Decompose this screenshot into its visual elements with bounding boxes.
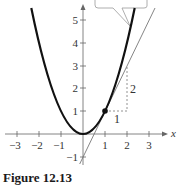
y-tick-label: 1	[73, 105, 79, 117]
x-tick-label: −1	[53, 139, 65, 151]
x-tick-label: 3	[146, 139, 152, 151]
figure-plot: −3 −2 −1 1 2 3 −1 1 2 3 4 5 x 2 1	[0, 0, 181, 191]
x-axis-arrow-icon	[162, 132, 168, 137]
x-tick-label: 2	[124, 139, 130, 151]
y-tick-label: 5	[73, 14, 79, 26]
tangent-line	[80, 8, 155, 164]
figure-caption: Figure 12.13	[3, 170, 72, 186]
x-tick-label: 1	[102, 139, 108, 151]
run-label: 1	[114, 112, 120, 126]
tangent-point	[102, 108, 108, 114]
y-axis-arrow-icon	[81, 4, 86, 10]
callout-box	[95, 0, 147, 26]
y-tick-label: 4	[73, 37, 79, 49]
y-tick-label: 2	[73, 82, 79, 94]
x-tick-label: −3	[9, 139, 21, 151]
y-tick-label: 3	[73, 60, 79, 72]
x-tick-label: −2	[31, 139, 43, 151]
rise-label: 2	[130, 82, 136, 96]
x-axis-label: x	[170, 127, 176, 139]
y-tick-label: −1	[66, 151, 78, 163]
